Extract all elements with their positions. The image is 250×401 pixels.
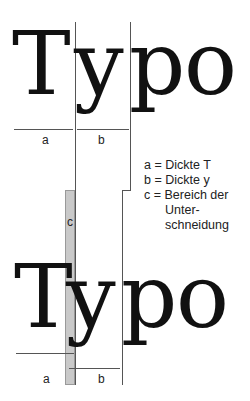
legend-item-a: a = Dickte T <box>144 158 229 173</box>
top-label-a: a <box>42 133 49 147</box>
kern-label-c: c <box>67 215 73 229</box>
top-width-a <box>14 129 73 130</box>
top-word: T y p o <box>0 20 250 120</box>
top-letter-o: o <box>184 20 237 108</box>
bottom-label-a: a <box>43 372 50 386</box>
bottom-width-a <box>16 353 74 354</box>
top-letter-y: y <box>74 20 124 108</box>
rule-right-step <box>122 190 131 191</box>
legend-item-c-cont2: schneidung <box>144 218 229 233</box>
bottom-letter-y: y <box>66 253 116 341</box>
top-label-b: b <box>98 133 105 147</box>
bottom-letter-t: T <box>14 253 73 341</box>
bottom-width-b <box>69 368 120 369</box>
bottom-label-b: b <box>98 372 105 386</box>
top-letter-t: T <box>12 20 71 108</box>
bottom-letter-o: o <box>176 253 229 341</box>
legend-item-c: c = Bereich der <box>144 188 229 203</box>
bottom-letter-p: p <box>121 253 177 341</box>
legend: a = Dickte T b = Dickte y c = Bereich de… <box>144 158 229 233</box>
legend-item-c-cont1: Unter- <box>144 203 229 218</box>
top-letter-p: p <box>129 20 185 108</box>
bottom-word: T y p o <box>0 253 250 353</box>
legend-item-b: b = Dickte y <box>144 173 229 188</box>
top-width-b <box>77 129 129 130</box>
